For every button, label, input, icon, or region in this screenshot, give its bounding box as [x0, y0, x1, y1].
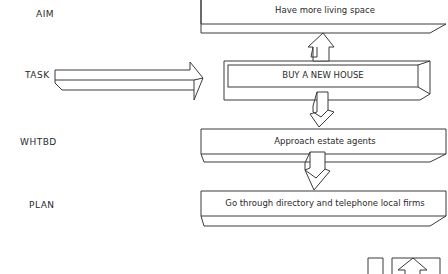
whtbd-text: Approach estate agents	[230, 136, 420, 146]
plan-box	[201, 191, 446, 226]
aim-text: Have more living space	[230, 5, 420, 15]
row-label-aim: AIM	[36, 9, 54, 19]
row-label-plan: PLAN	[29, 200, 55, 210]
task-text: BUY A NEW HOUSE	[228, 70, 418, 80]
row-label-task: TASK	[25, 70, 50, 80]
plan-text: Go through directory and telephone local…	[210, 198, 440, 208]
partial-figure	[368, 258, 440, 274]
row-label-whtbd: WHTBD	[20, 137, 57, 147]
arrow-up-icon	[308, 33, 334, 61]
task-arrow-icon	[55, 62, 203, 100]
